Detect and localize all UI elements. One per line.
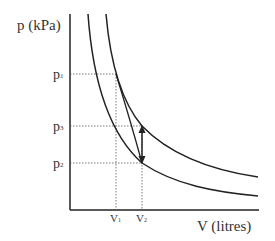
- lower-isotherm-curve: [88, 14, 258, 196]
- pv-diagram: p (kPa) V (litres) p1 p3 p2 V1 V2: [0, 0, 275, 241]
- upper-isotherm-curve: [106, 14, 258, 177]
- double-arrow-icon: [139, 125, 146, 164]
- tick-p1: p1: [53, 67, 64, 82]
- tick-p2: p2: [53, 156, 64, 171]
- tick-v1: V1: [110, 212, 121, 224]
- y-axis-label: p (kPa): [17, 17, 61, 34]
- tick-v2: V2: [136, 212, 147, 224]
- x-axis-label: V (litres): [197, 218, 251, 235]
- tick-p3: p3: [53, 119, 64, 134]
- guide-lines: [70, 74, 143, 210]
